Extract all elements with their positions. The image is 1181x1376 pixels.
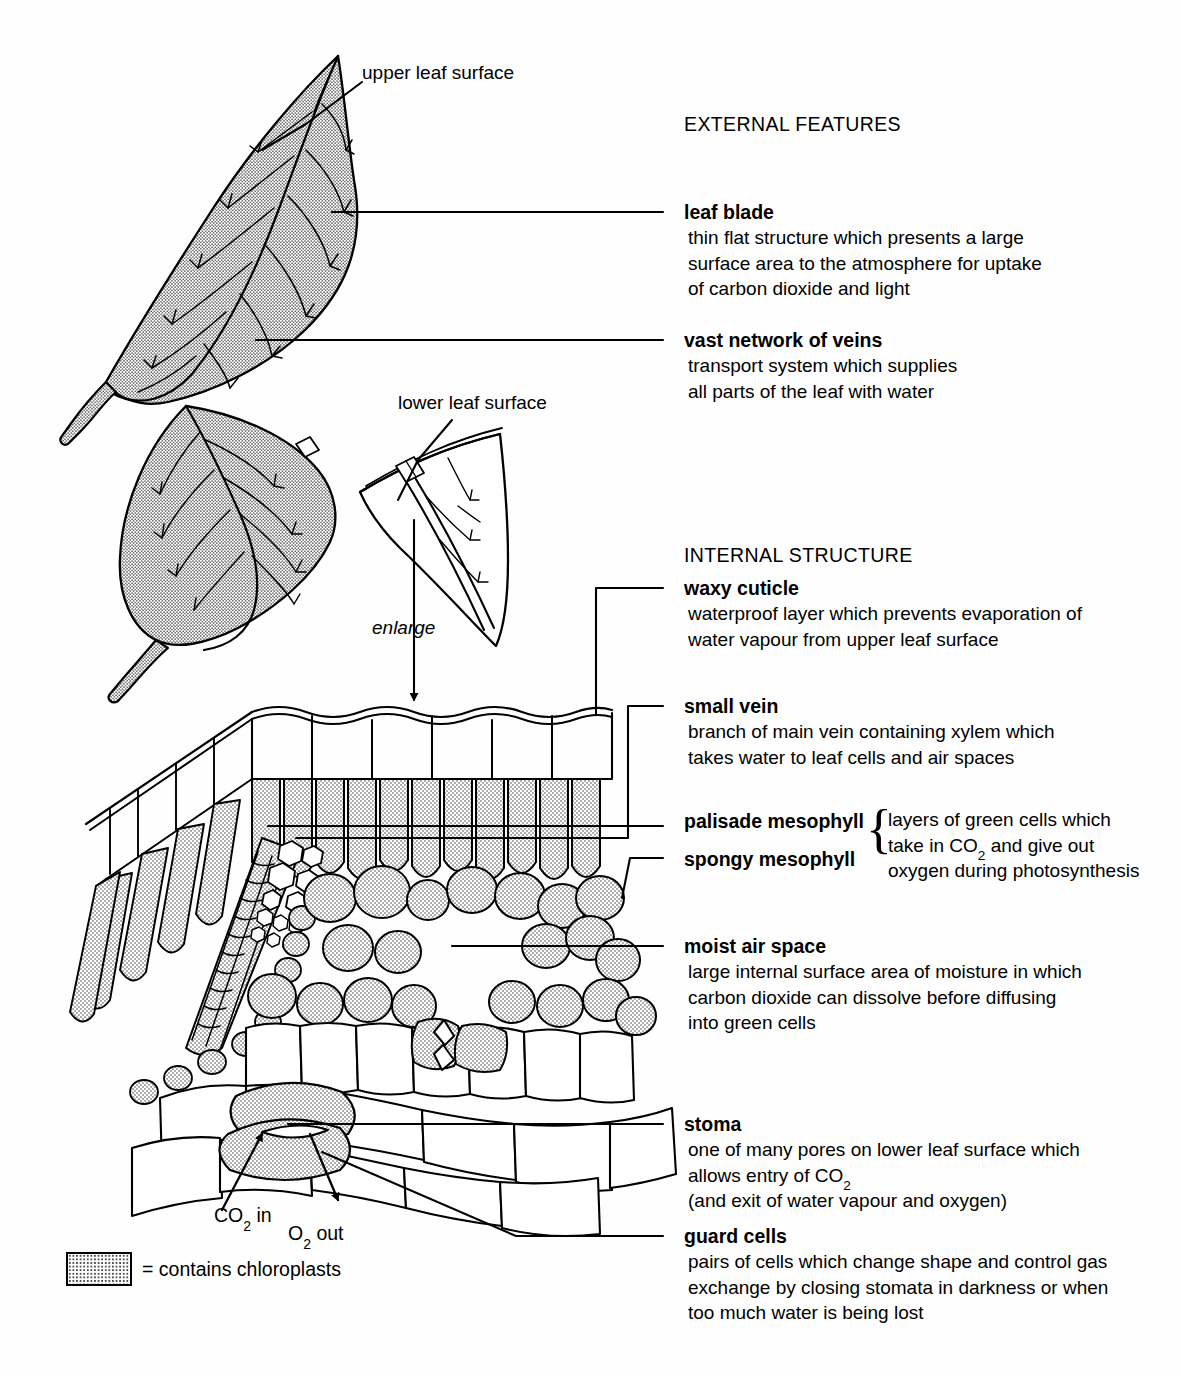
desc-line: into green cells	[688, 1010, 1154, 1036]
desc-line: surface area to the atmosphere for uptak…	[688, 251, 1154, 277]
term-stoma: stoma	[684, 1112, 1154, 1137]
legend-label: = contains chloroplasts	[142, 1258, 341, 1281]
lower-surface-leaf-illustration	[109, 406, 336, 702]
heading-external-features: EXTERNAL FEATURES	[684, 113, 901, 136]
desc-guard-cells: pairs of cells which change shape and co…	[684, 1249, 1154, 1326]
term-spongy-mesophyll: spongy mesophyll	[684, 848, 855, 871]
desc-line: takes water to leaf cells and air spaces	[688, 745, 1154, 771]
term-waxy-cuticle: waxy cuticle	[684, 576, 1154, 601]
entry-moist-air-space: moist air space large internal surface a…	[684, 934, 1154, 1036]
desc-line: one of many pores on lower leaf surface …	[688, 1137, 1154, 1163]
label-co2-in: CO2 in	[214, 1204, 272, 1227]
desc-line: waterproof layer which prevents evaporat…	[688, 601, 1154, 627]
leaf-cross-section-block	[70, 707, 676, 1236]
desc-line: take in CO2 and give out	[888, 833, 1139, 859]
desc-leaf-blade: thin flat structure which presents a lar…	[684, 225, 1154, 302]
stoma-and-guard-cells	[219, 1083, 354, 1180]
desc-line: layers of green cells which	[888, 807, 1139, 833]
desc-line: pairs of cells which change shape and co…	[688, 1249, 1154, 1275]
entry-stoma: stoma one of many pores on lower leaf su…	[684, 1112, 1154, 1214]
desc-line: (and exit of water vapour and oxygen)	[688, 1188, 1154, 1214]
whole-leaf-illustration	[60, 56, 357, 445]
desc-line: carbon dioxide can dissolve before diffu…	[688, 985, 1154, 1011]
term-small-vein: small vein	[684, 694, 1154, 719]
desc-vast-network-of-veins: transport system which supplies all part…	[684, 353, 1154, 404]
desc-line: large internal surface area of moisture …	[688, 959, 1154, 985]
desc-line: branch of main vein containing xylem whi…	[688, 719, 1154, 745]
desc-line: thin flat structure which presents a lar…	[688, 225, 1154, 251]
desc-line: too much water is being lost	[688, 1300, 1154, 1326]
entry-waxy-cuticle: waxy cuticle waterproof layer which prev…	[684, 576, 1154, 652]
stipple-chloroplast-swatch	[66, 1252, 132, 1286]
entry-leaf-blade: leaf blade thin flat structure which pre…	[684, 200, 1154, 302]
desc-stoma: one of many pores on lower leaf surface …	[684, 1137, 1154, 1214]
term-moist-air-space: moist air space	[684, 934, 1154, 959]
desc-line: exchange by closing stomata in darkness …	[688, 1275, 1154, 1301]
desc-small-vein: branch of main vein containing xylem whi…	[684, 719, 1154, 770]
cropped-figure-caption	[0, 1364, 420, 1376]
label-lower-leaf-surface: lower leaf surface	[398, 392, 547, 414]
term-leaf-blade: leaf blade	[684, 200, 1154, 225]
entry-small-vein: small vein branch of main vein containin…	[684, 694, 1154, 770]
term-palisade-mesophyll: palisade mesophyll	[684, 810, 864, 833]
desc-waxy-cuticle: waterproof layer which prevents evaporat…	[684, 601, 1154, 652]
desc-moist-air-space: large internal surface area of moisture …	[684, 959, 1154, 1036]
term-guard-cells: guard cells	[684, 1224, 1154, 1249]
desc-line: all parts of the leaf with water	[688, 379, 1154, 405]
label-enlarge: enlarge	[372, 617, 435, 639]
heading-internal-structure: INTERNAL STRUCTURE	[684, 544, 913, 567]
desc-line: water vapour from upper leaf surface	[688, 627, 1154, 653]
desc-line: allows entry of CO2	[688, 1163, 1154, 1189]
entry-guard-cells: guard cells pairs of cells which change …	[684, 1224, 1154, 1326]
term-vast-network-of-veins: vast network of veins	[684, 328, 1154, 353]
leaf-structure-figure: upper leaf surface lower leaf surface en…	[0, 0, 1181, 1376]
desc-line: oxygen during photosynthesis	[888, 858, 1139, 884]
desc-mesophyll-pair: layers of green cells which take in CO2 …	[888, 807, 1139, 884]
desc-line: transport system which supplies	[688, 353, 1154, 379]
label-upper-leaf-surface: upper leaf surface	[362, 62, 514, 84]
label-o2-out: O2 out	[288, 1222, 344, 1245]
entry-vast-network-of-veins: vast network of veins transport system w…	[684, 328, 1154, 404]
desc-line: of carbon dioxide and light	[688, 276, 1154, 302]
leaf-flap-illustration	[360, 428, 508, 646]
legend: = contains chloroplasts	[66, 1252, 341, 1286]
